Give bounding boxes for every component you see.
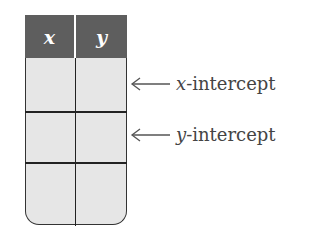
y-intercept-annotation: y-intercept <box>130 124 276 145</box>
left-arrow-icon <box>130 77 170 91</box>
annotation-label: -intercept <box>186 73 275 94</box>
left-arrow-icon <box>130 128 170 142</box>
header-x: x <box>25 15 74 58</box>
annotation-var: y <box>176 124 186 145</box>
x-intercept-annotation: x-intercept <box>130 73 276 94</box>
column-divider <box>75 58 76 226</box>
annotation-label: -intercept <box>186 124 275 145</box>
row-divider-1 <box>25 111 127 113</box>
annotation-var: x <box>176 73 186 94</box>
xy-table: x y <box>25 15 127 226</box>
header-y: y <box>76 15 127 58</box>
table-body <box>25 58 127 225</box>
row-divider-2 <box>25 162 127 164</box>
